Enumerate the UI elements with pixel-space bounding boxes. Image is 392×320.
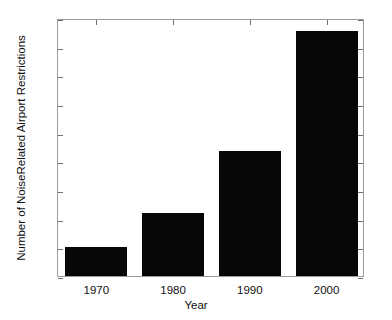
plot-area: 0100200300400500600700800900 19701980199… [57, 19, 364, 277]
x-axis-tick-label: 1970 [66, 284, 126, 296]
x-axis-tick-label: 2000 [297, 284, 357, 296]
bar [142, 213, 204, 276]
x-axis-tick-label: 1980 [143, 284, 203, 296]
x-axis-tick-label: 1990 [220, 284, 280, 296]
x-axis-title: Year [0, 299, 392, 311]
y-axis-tick [58, 278, 63, 279]
y-axis-tick-right [358, 278, 363, 279]
y-axis-title: Number of NoiseRelated Airport Restricti… [14, 19, 28, 277]
bars-layer [58, 20, 363, 276]
bar [296, 31, 358, 276]
bar-chart-figure: 0100200300400500600700800900 19701980199… [0, 0, 392, 320]
bar [65, 247, 127, 276]
bar [219, 151, 281, 276]
